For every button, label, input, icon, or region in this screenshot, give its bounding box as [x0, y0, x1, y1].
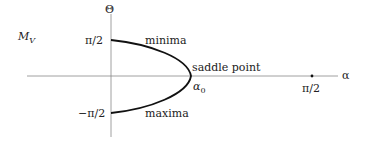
- alpha-pi-half-tick: [311, 75, 314, 78]
- tick-alpha-pi-half: π/2: [302, 83, 320, 94]
- alpha-zero-sub: 0: [200, 86, 205, 95]
- alpha-zero-label: α0: [193, 81, 206, 95]
- tick-theta-minus-pi-half: −π/2: [78, 108, 105, 119]
- saddle-point-label: saddle point: [192, 62, 261, 73]
- minima-label: minima: [145, 35, 187, 46]
- alpha-axis-label: α: [342, 70, 349, 81]
- critical-curve: [111, 40, 191, 113]
- theta-axis-label: Θ: [105, 4, 114, 15]
- saddle-point-diagram: Θ α MV π/2 −π/2 π/2 minima saddle point …: [0, 0, 365, 144]
- maxima-label: maxima: [145, 108, 189, 119]
- diagram-canvas: [0, 0, 365, 144]
- function-label-sub: V: [29, 36, 35, 45]
- function-label: MV: [18, 31, 35, 45]
- tick-theta-pi-half: π/2: [85, 35, 103, 46]
- function-label-main: M: [18, 30, 29, 43]
